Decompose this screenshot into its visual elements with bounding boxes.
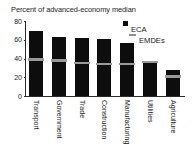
dash-marker-icon	[129, 34, 136, 36]
y-tick-label: 0	[18, 93, 22, 100]
y-tick-mark	[24, 59, 26, 60]
chart-title: Percent of advanced-economy median	[11, 5, 136, 14]
bar-group	[25, 21, 48, 96]
bar-eca[interactable]	[52, 37, 66, 96]
marker-emdes[interactable]	[96, 63, 112, 65]
bar-group	[93, 21, 116, 96]
y-tick-mark	[24, 96, 26, 97]
x-label-slot: Agriculture	[161, 98, 184, 153]
x-label-slot: Construction	[93, 98, 116, 153]
marker-emdes[interactable]	[28, 58, 44, 60]
y-tick-mark	[24, 21, 26, 22]
bar-group	[48, 21, 71, 96]
marker-emdes[interactable]	[119, 63, 135, 65]
y-axis-tick-labels: 020406080	[0, 21, 22, 96]
legend-item-emdes[interactable]: EMDEs	[121, 29, 191, 40]
chart-legend: ECA EMDEs	[121, 18, 191, 40]
bar-eca[interactable]	[143, 61, 157, 96]
x-label-slot: Government	[48, 98, 71, 153]
x-axis-label: Utilities	[146, 100, 153, 123]
square-marker-icon	[123, 21, 128, 26]
chart-container: Percent of advanced-economy median 02040…	[0, 0, 192, 153]
bar-eca[interactable]	[75, 38, 89, 96]
y-tick-label: 60	[14, 36, 22, 43]
x-axis-category-labels: TransportGovernmentTradeConstructionManu…	[25, 98, 184, 153]
marker-emdes[interactable]	[142, 61, 158, 63]
y-tick-label: 20	[14, 74, 22, 81]
x-axis-label: Agriculture	[169, 100, 176, 133]
marker-emdes[interactable]	[165, 75, 181, 77]
bar-eca[interactable]	[166, 70, 180, 96]
marker-emdes[interactable]	[74, 62, 90, 64]
x-axis-label: Trade	[78, 100, 85, 118]
y-tick-mark	[24, 40, 26, 41]
x-axis-label: Government	[56, 100, 63, 139]
y-tick-mark	[24, 77, 26, 78]
bar-group	[70, 21, 93, 96]
x-label-slot: Transport	[25, 98, 48, 153]
marker-emdes[interactable]	[51, 59, 67, 61]
x-axis-label: Transport	[33, 100, 40, 130]
x-axis-label: Construction	[101, 100, 108, 139]
bar-eca[interactable]	[120, 43, 134, 96]
x-label-slot: Manufacturing	[116, 98, 139, 153]
x-axis-line	[25, 96, 185, 97]
y-tick-label: 80	[14, 18, 22, 25]
x-label-slot: Utilities	[139, 98, 162, 153]
legend-item-eca[interactable]: ECA	[121, 18, 191, 29]
legend-label-emdes: EMDEs	[139, 36, 165, 45]
bar-eca[interactable]	[29, 31, 43, 96]
x-label-slot: Trade	[70, 98, 93, 153]
x-axis-label: Manufacturing	[124, 100, 131, 144]
bar-eca[interactable]	[97, 39, 111, 96]
y-tick-label: 40	[14, 55, 22, 62]
